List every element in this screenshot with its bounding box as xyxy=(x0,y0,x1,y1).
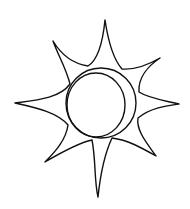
sun-crescent-inner xyxy=(67,73,125,137)
sun-icon xyxy=(0,0,190,209)
sun-drawing-canvas: Hand-drawn sun sketch with eight pointed… xyxy=(0,0,190,209)
sun-rays-outline xyxy=(15,20,179,197)
